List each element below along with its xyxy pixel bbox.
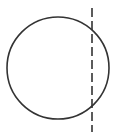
- diagram-canvas: [0, 0, 122, 139]
- circle-shape: [7, 17, 109, 119]
